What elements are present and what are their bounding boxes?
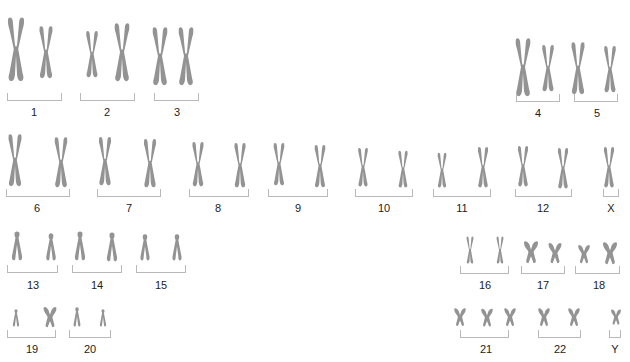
chromosome-pair-4 bbox=[516, 38, 554, 96]
chromosome-y bbox=[611, 309, 621, 324]
chromosome-pair-17 bbox=[524, 241, 561, 263]
chromosome-pair-12 bbox=[518, 146, 568, 188]
group-label: 5 bbox=[582, 107, 612, 119]
chromosome-pair-19 bbox=[13, 307, 56, 327]
bracket bbox=[7, 93, 62, 101]
bracket bbox=[72, 265, 122, 273]
group-label: 8 bbox=[203, 202, 233, 214]
bracket bbox=[136, 265, 186, 273]
bracket bbox=[538, 330, 581, 338]
chromosome-pair-11 bbox=[438, 147, 489, 188]
group-label: 6 bbox=[22, 202, 52, 214]
group-label: X bbox=[596, 202, 626, 214]
chromosome-pair-6 bbox=[8, 134, 67, 187]
chromosome-pair-7 bbox=[99, 137, 156, 187]
chromosome-pair-22 bbox=[538, 308, 579, 326]
bracket bbox=[433, 189, 491, 197]
bracket bbox=[7, 330, 56, 338]
group-label: 1 bbox=[19, 106, 49, 118]
chromosome-pair-16 bbox=[467, 237, 504, 264]
chromosome-x bbox=[604, 147, 614, 187]
bracket bbox=[80, 93, 135, 101]
group-label: 16 bbox=[470, 279, 500, 291]
group-label: 21 bbox=[471, 343, 501, 355]
group-label: 15 bbox=[146, 279, 176, 291]
bracket bbox=[575, 266, 620, 274]
bracket bbox=[574, 94, 618, 102]
bracket bbox=[7, 265, 58, 273]
bracket bbox=[355, 189, 413, 197]
group-label: 9 bbox=[283, 202, 313, 214]
chromosome-pair-3 bbox=[153, 27, 194, 85]
group-label: 11 bbox=[447, 202, 477, 214]
bracket bbox=[521, 266, 565, 274]
bracket bbox=[97, 189, 161, 197]
bracket bbox=[603, 189, 619, 197]
bracket bbox=[460, 266, 509, 274]
group-label: 2 bbox=[92, 106, 122, 118]
chromosome-pair-1 bbox=[8, 17, 53, 81]
bracket bbox=[69, 330, 111, 338]
bracket bbox=[154, 93, 199, 101]
chromosome-pair-15 bbox=[140, 234, 181, 260]
group-label: 18 bbox=[584, 279, 614, 291]
bracket bbox=[515, 189, 572, 197]
bracket bbox=[189, 189, 249, 197]
group-label: 20 bbox=[75, 343, 105, 355]
chromosome-pair-14 bbox=[75, 231, 117, 261]
group-label: 19 bbox=[17, 343, 47, 355]
group-label: 17 bbox=[528, 279, 558, 291]
chromosome-pair-2 bbox=[86, 23, 129, 81]
chromosome-pair-8 bbox=[192, 142, 245, 187]
bracket bbox=[268, 189, 328, 197]
bracket bbox=[6, 189, 70, 197]
chromosome-pair-13 bbox=[12, 231, 56, 260]
group-label: 22 bbox=[545, 343, 575, 355]
chromosome-pair-5 bbox=[571, 42, 615, 94]
karyotype-chromosomes bbox=[0, 0, 630, 362]
chromosome-pair-9 bbox=[274, 143, 326, 187]
bracket bbox=[460, 330, 509, 338]
group-label: 14 bbox=[82, 279, 112, 291]
chromosome-pair-20 bbox=[74, 307, 106, 326]
bracket bbox=[609, 330, 621, 338]
group-label: Y bbox=[600, 343, 630, 355]
group-label: 7 bbox=[114, 202, 144, 214]
chromosome-pair-18 bbox=[578, 242, 617, 264]
group-label: 13 bbox=[18, 279, 48, 291]
chromosome-pair-10 bbox=[358, 148, 408, 188]
chromosome-trisomy-21 bbox=[454, 308, 515, 326]
group-label: 4 bbox=[523, 107, 553, 119]
bracket bbox=[516, 94, 560, 102]
group-label: 3 bbox=[162, 106, 192, 118]
group-label: 10 bbox=[369, 202, 399, 214]
group-label: 12 bbox=[528, 202, 558, 214]
